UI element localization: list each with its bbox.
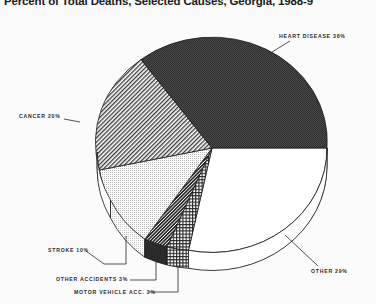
leader-line-cancer bbox=[64, 119, 80, 122]
leader-line-heart-disease bbox=[272, 41, 290, 52]
slice-label-heart-disease: HEART DISEASE 38% bbox=[279, 33, 346, 40]
leader-line-other-accidents bbox=[130, 262, 156, 280]
slice-label-stroke: STROKE 10% bbox=[48, 247, 89, 254]
leader-line-other bbox=[285, 235, 318, 266]
pie-wall-motor-vehicle bbox=[167, 247, 189, 268]
leader-line-stroke bbox=[86, 236, 126, 264]
slice-label-motor-vehicle: MOTOR VEHICLE ACC. 2% bbox=[74, 289, 156, 296]
pie-slice-other bbox=[189, 148, 328, 252]
pie-chart bbox=[0, 0, 376, 304]
slice-label-other-accidents: OTHER ACCIDENTS 3% bbox=[56, 276, 128, 283]
pie-chart-svg bbox=[0, 0, 376, 304]
slice-label-other: OTHER 29% bbox=[311, 268, 348, 275]
slice-label-cancer: CANCER 20% bbox=[19, 113, 61, 120]
pie-slices bbox=[95, 37, 327, 252]
